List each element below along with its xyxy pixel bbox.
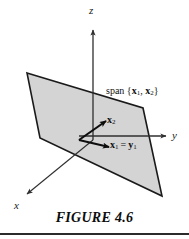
vector-space-diagram [0, 0, 189, 239]
figure-4-6: z y x span {x1, x2} x2 x1=y1 FIGURE 4.6 [0, 0, 189, 239]
figure-caption: FIGURE 4.6 [0, 210, 189, 226]
vector-x1-equals-y1-label: x1=y1 [110, 140, 137, 151]
equals-sign: = [119, 139, 129, 150]
z-axis-label: z [89, 5, 93, 16]
vector-y1-subscript: 1 [133, 143, 137, 151]
span-close-brace: } [154, 85, 159, 96]
y-axis-label: y [172, 130, 177, 141]
span-prefix-text: span [106, 85, 127, 96]
span-label: span {x1, x2} [106, 86, 158, 97]
vector-x2-subscript: 2 [112, 118, 116, 126]
vector-x1-subscript: 1 [115, 143, 119, 151]
vector-x2-label: x2 [107, 115, 116, 126]
bottom-divider [0, 233, 189, 235]
